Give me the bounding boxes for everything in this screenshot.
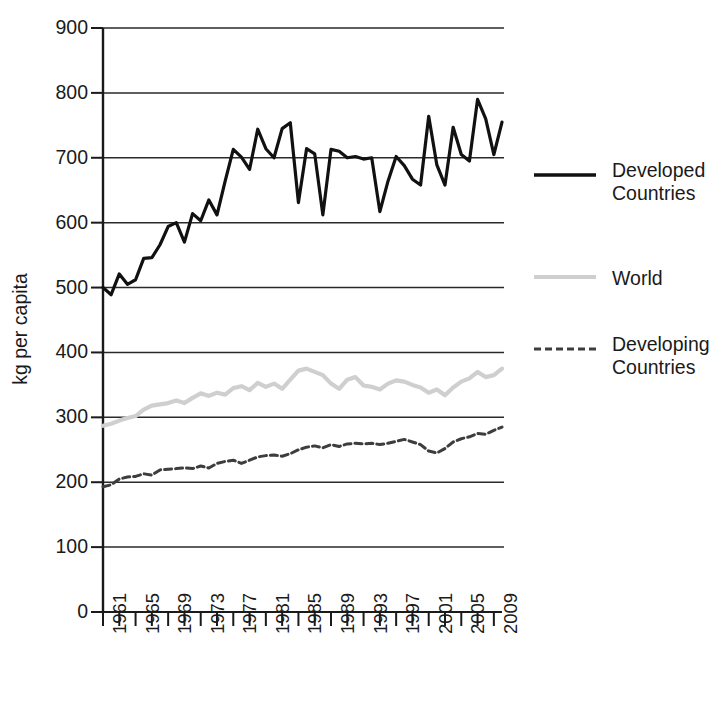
series-line-0 [103, 99, 502, 294]
x-tick-label: 1981 [274, 593, 293, 634]
legend-marks [534, 175, 596, 349]
x-tick-label: 1989 [339, 593, 358, 634]
y-tick-label: 500 [30, 278, 88, 298]
legend-item-label: World [612, 267, 663, 290]
y-axis-title-text: kg per capita [9, 273, 32, 385]
x-tick-label: 2009 [502, 593, 521, 634]
x-tick-label: 2001 [437, 593, 456, 634]
x-tick-label: 1993 [372, 593, 391, 634]
y-tick-label: 400 [30, 342, 88, 362]
y-tick-label: 100 [30, 537, 88, 557]
y-axis-title: kg per capita [8, 244, 32, 414]
chart-figure: kg per capita 01002003004005006007008009… [0, 0, 723, 706]
x-tick-label: 1969 [176, 593, 195, 634]
series-line-2 [103, 427, 502, 487]
legend-item-label: Developing Countries [612, 333, 710, 379]
x-tick-label: 2005 [469, 593, 488, 634]
x-tick-label: 1965 [144, 593, 163, 634]
y-tick-label: 700 [30, 148, 88, 168]
x-tick-label: 1973 [209, 593, 228, 634]
x-tick-label: 1977 [241, 593, 260, 634]
y-tick-label: 900 [30, 18, 88, 38]
y-tick-label: 300 [30, 407, 88, 427]
x-tick-label: 1961 [111, 593, 130, 634]
y-tick-label: 0 [30, 602, 88, 622]
legend-item-label: Developed Countries [612, 159, 705, 205]
x-tick-label: 1997 [404, 593, 423, 634]
x-tick-label: 1985 [306, 593, 325, 634]
y-tick-label: 800 [30, 83, 88, 103]
y-tick-label: 600 [30, 213, 88, 233]
y-tick-label: 200 [30, 472, 88, 492]
y-axis-ticks [91, 28, 103, 612]
